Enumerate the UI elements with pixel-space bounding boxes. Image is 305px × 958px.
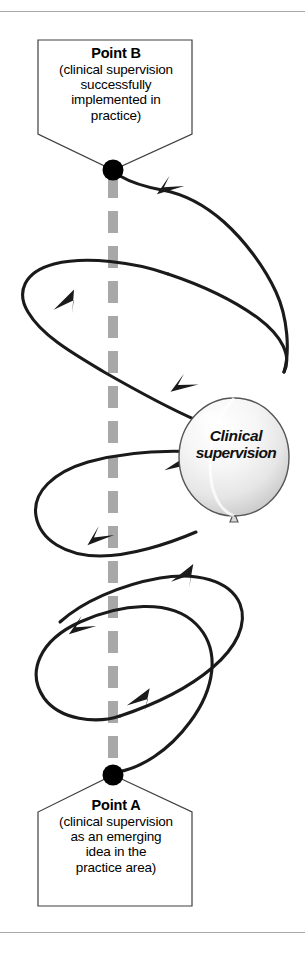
point-a-body-line-1: (clinical supervision: [38, 814, 194, 829]
point-b-body-line-4: practice): [38, 108, 194, 123]
point-b-title: Point B: [38, 45, 194, 61]
point-b-body-line-3: implemented in: [38, 92, 194, 107]
balloon-label-block: Clinical supervision: [178, 427, 294, 462]
point-b-marker-dot: [103, 160, 124, 181]
point-b-body-line-1: (clinical supervision: [38, 62, 194, 77]
figure-container: Point B (clinical supervision successful…: [0, 0, 305, 958]
point-b-body-line-2: successfully: [38, 77, 194, 92]
point-a-text-block: Point A (clinical supervision as an emer…: [38, 797, 194, 875]
point-a-marker-dot: [103, 765, 124, 786]
point-a-body-line-3: idea in the: [38, 844, 194, 859]
balloon-label-line-1: Clinical: [178, 427, 294, 444]
point-a-body-line-2: as an emerging: [38, 829, 194, 844]
point-b-text-block: Point B (clinical supervision successful…: [38, 45, 194, 123]
balloon-label-line-2: supervision: [178, 444, 294, 461]
point-a-title: Point A: [38, 797, 194, 813]
point-a-body-line-4: practice area): [38, 860, 194, 875]
